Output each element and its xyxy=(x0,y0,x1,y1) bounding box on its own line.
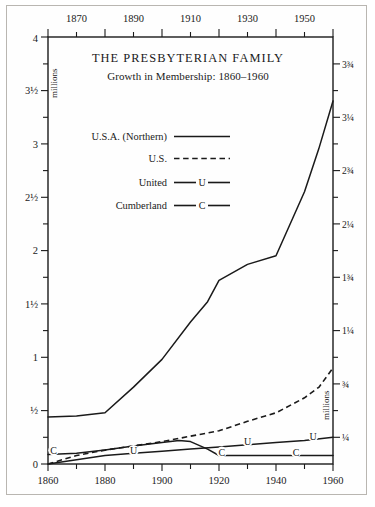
left-tick-label-1-5: 1½ xyxy=(25,299,38,310)
chart-subtitle: Growth in Membership: 1860–1960 xyxy=(107,70,269,82)
right-tick-label-3-75: 3¾ xyxy=(342,59,354,70)
marker-united-1930: U xyxy=(244,436,252,447)
right-tick-label-3-25: 3¼ xyxy=(342,112,354,123)
bottom-tick-label-1900: 1900 xyxy=(152,475,173,486)
left-tick-label-3: 3 xyxy=(33,139,38,150)
left-tick-label-2-5: 2½ xyxy=(25,192,38,203)
marker-united-1890: U xyxy=(130,445,138,456)
bottom-axis-ticks xyxy=(48,464,333,471)
series-line-usa-northern xyxy=(48,101,333,417)
left-tick-label-0: 0 xyxy=(33,459,38,470)
chart-title: THE PRESBYTERIAN FAMILY xyxy=(92,51,284,65)
left-tick-label-1: 1 xyxy=(33,352,38,363)
top-tick-label-1950: 1950 xyxy=(294,13,315,24)
left-tick-label-3-5: 3½ xyxy=(25,85,38,96)
right-tick-label-quarter: ¼ xyxy=(342,432,349,443)
series-point-markers: C U C U C U xyxy=(48,431,318,458)
left-axis-ticks xyxy=(41,37,48,464)
left-tick-label-2: 2 xyxy=(33,245,38,256)
bottom-tick-label-1920: 1920 xyxy=(209,475,230,486)
legend-marker-cumberland: C xyxy=(199,200,206,211)
right-tick-label-2-75: 2¾ xyxy=(342,165,354,176)
right-axis-ticks xyxy=(333,64,340,437)
series-line-cumberland xyxy=(48,441,333,456)
plot-frame xyxy=(48,37,333,464)
bottom-axis-labels: 1860 1880 1900 1920 1940 1960 xyxy=(38,475,344,486)
right-axis-unit-label: millions xyxy=(321,390,331,420)
legend-label-usa-northern: U.S.A. (Northern) xyxy=(91,131,167,143)
left-axis-labels: 0 ½ 1 1½ 2 2½ 3 3½ 4 xyxy=(25,33,39,470)
left-axis-unit-label: millions xyxy=(49,68,59,98)
right-tick-label-1-75: 1¾ xyxy=(342,272,354,283)
presbyterian-family-line-chart: 1870 1890 1910 1930 1950 1860 1880 1900 … xyxy=(0,0,375,507)
bottom-tick-label-1880: 1880 xyxy=(95,475,116,486)
marker-cumberland-1920: C xyxy=(218,447,225,458)
right-axis-labels: ¼ ¾ 1¼ 1¾ 2¼ 2¾ 3¼ 3¾ xyxy=(342,59,354,443)
chart-legend: U.S.A. (Northern) U.S. United U Cumberla… xyxy=(91,131,230,211)
marker-cumberland-1947: C xyxy=(293,447,300,458)
legend-marker-united: U xyxy=(198,177,206,188)
top-axis-labels: 1870 1890 1910 1930 1950 xyxy=(66,13,315,24)
right-tick-label-2-25: 2¼ xyxy=(342,219,354,230)
top-tick-label-1890: 1890 xyxy=(123,13,144,24)
right-tick-label-three-quarter: ¾ xyxy=(342,379,349,390)
top-tick-label-1870: 1870 xyxy=(66,13,87,24)
legend-label-united: United xyxy=(139,177,168,188)
top-tick-label-1910: 1910 xyxy=(180,13,201,24)
bottom-tick-label-1940: 1940 xyxy=(266,475,287,486)
top-tick-label-1930: 1930 xyxy=(237,13,258,24)
left-tick-label-half: ½ xyxy=(30,405,38,416)
bottom-tick-label-1860: 1860 xyxy=(38,475,59,486)
marker-cumberland-1860: C xyxy=(50,445,57,456)
legend-label-cumberland: Cumberland xyxy=(116,200,168,211)
bottom-tick-label-1960: 1960 xyxy=(323,475,344,486)
left-tick-label-4: 4 xyxy=(33,33,39,44)
legend-label-us: U.S. xyxy=(149,153,167,164)
chart-page: 1870 1890 1910 1930 1950 1860 1880 1900 … xyxy=(0,0,375,507)
top-axis-ticks xyxy=(48,29,333,37)
marker-united-1953: U xyxy=(309,431,317,442)
right-tick-label-1-25: 1¼ xyxy=(342,325,354,336)
